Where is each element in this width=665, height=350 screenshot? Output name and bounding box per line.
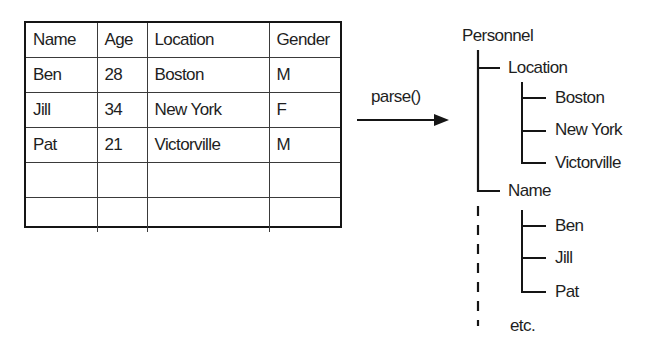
tree-leaf-jill: Jill (555, 249, 572, 266)
parse-label: parse() (371, 88, 421, 105)
tree-root: Personnel (462, 27, 533, 44)
right-arrow-icon (357, 114, 449, 126)
tree-leaf-boston: Boston (555, 89, 604, 106)
tree-leaf-pat: Pat (555, 283, 579, 300)
tree-node-location: Location (508, 59, 567, 76)
tree-leaf-newyork: New York (555, 121, 622, 138)
tree-leaf-ben: Ben (555, 217, 583, 234)
tree-etc: etc. (510, 317, 535, 334)
tree-leaf-victorville: Victorville (555, 154, 621, 171)
tree-node-name: Name (508, 182, 551, 199)
